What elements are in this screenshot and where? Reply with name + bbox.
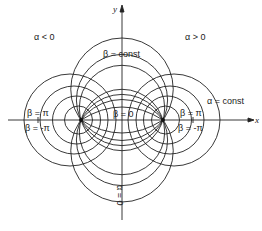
alpha-zero-label: α = 0	[115, 185, 125, 205]
region-label-right: α > 0	[185, 32, 205, 42]
beta-zero-label: β = 0	[113, 109, 133, 119]
bipolar-diagram: y x α < 0 α > 0 β = const β = 0 α = cons…	[0, 0, 262, 231]
region-label-left: α < 0	[34, 32, 54, 42]
left-focus	[79, 118, 83, 122]
right-beta-minus-pi-label: β = -π	[178, 123, 203, 133]
x-axis-arrow-icon	[248, 118, 254, 122]
right-focus	[161, 118, 165, 122]
left-beta-pi-label: β = π	[27, 108, 49, 118]
left-beta-minus-pi-label: β = -π	[25, 123, 50, 133]
y-axis-arrow-icon	[120, 5, 124, 12]
right-beta-pi-label: β = π	[180, 108, 202, 118]
x-axis-label: x	[254, 115, 259, 125]
beta-const-label: β = const	[103, 49, 140, 59]
alpha-const-label: α = const	[207, 96, 244, 106]
y-axis-label: y	[112, 4, 117, 14]
